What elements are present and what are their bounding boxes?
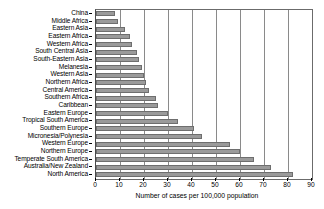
x-axis-tick-label: 10: [115, 181, 122, 188]
x-axis-tick-labels: 0102030405060708090: [0, 181, 324, 191]
y-axis-label: Middle Africa: [0, 17, 92, 25]
y-axis-tick: [89, 128, 92, 129]
y-axis-tick: [89, 143, 92, 144]
bar: [96, 57, 139, 62]
bar-row: [96, 110, 312, 118]
bar-row: [96, 117, 312, 125]
bar-row: [96, 18, 312, 26]
bar-row: [96, 56, 312, 64]
bar: [96, 134, 202, 139]
x-axis-tick-label: 90: [307, 181, 314, 188]
x-axis-tick-label: 40: [187, 181, 194, 188]
bar: [96, 65, 142, 70]
bar: [96, 88, 149, 93]
bar: [96, 73, 144, 78]
bar: [96, 11, 115, 16]
bar-row: [96, 25, 312, 33]
y-axis-tick: [89, 136, 92, 137]
y-axis-label: South Central Asia: [0, 47, 92, 55]
y-axis-tick: [89, 67, 92, 68]
y-axis-tick: [89, 113, 92, 114]
bar: [96, 111, 168, 116]
bar: [96, 172, 293, 177]
bar-rows: [96, 10, 312, 179]
x-axis-title: Number of cases per 100,000 population: [0, 192, 324, 199]
y-axis-tick: [89, 44, 92, 45]
x-axis-tick-label: 0: [93, 181, 97, 188]
bar: [96, 142, 230, 147]
y-axis-label: Tropical South America: [0, 116, 92, 124]
bar: [96, 80, 146, 85]
bar-row: [96, 133, 312, 141]
x-axis-tick-label: 20: [139, 181, 146, 188]
bar: [96, 103, 158, 108]
y-axis-label: Southern Africa: [0, 93, 92, 101]
y-axis-label: Southern Europe: [0, 124, 92, 132]
x-axis-tick-label: 30: [163, 181, 170, 188]
bar: [96, 50, 137, 55]
y-axis-tick: [89, 159, 92, 160]
x-axis-tick-label: 50: [211, 181, 218, 188]
y-axis-label: Temperate South America: [0, 155, 92, 163]
y-axis-label: Australia/New Zealand: [0, 162, 92, 170]
y-axis-tick: [89, 120, 92, 121]
bar: [96, 19, 118, 24]
bar-row: [96, 64, 312, 72]
x-axis-tick-label: 80: [283, 181, 290, 188]
bar-row: [96, 87, 312, 95]
plot-area: [95, 9, 313, 180]
y-axis-tick: [89, 90, 92, 91]
bar: [96, 157, 254, 162]
y-axis-label: China: [0, 9, 92, 17]
bar-row: [96, 41, 312, 49]
y-axis-label: Western Europe: [0, 139, 92, 147]
y-axis-label: Central America: [0, 86, 92, 94]
y-axis-tick: [89, 97, 92, 98]
bar: [96, 165, 271, 170]
bar-row: [96, 125, 312, 133]
y-axis-category-labels: ChinaMiddle AfricaEastern AsiaEastern Af…: [0, 9, 92, 178]
bar: [96, 27, 125, 32]
y-axis-tick: [89, 28, 92, 29]
bar-row: [96, 156, 312, 164]
y-axis-label: Caribbean: [0, 101, 92, 109]
bar: [96, 126, 194, 131]
y-axis-label: Eastern Europe: [0, 109, 92, 117]
y-axis-tick: [89, 174, 92, 175]
bar-chart: ChinaMiddle AfricaEastern AsiaEastern Af…: [0, 0, 324, 209]
bar: [96, 34, 130, 39]
x-axis-tick-label: 70: [259, 181, 266, 188]
y-axis-tick: [89, 105, 92, 106]
x-axis-tick-label: 60: [235, 181, 242, 188]
y-axis-tick: [89, 51, 92, 52]
bar-row: [96, 102, 312, 110]
y-axis-label: Northern Africa: [0, 78, 92, 86]
y-axis-tick: [89, 82, 92, 83]
y-axis-label: North America: [0, 170, 92, 178]
y-axis-tick: [89, 13, 92, 14]
bar-row: [96, 79, 312, 87]
y-axis-tick: [89, 21, 92, 22]
bar: [96, 42, 132, 47]
bar-row: [96, 48, 312, 56]
bar-row: [96, 140, 312, 148]
y-axis-tick: [89, 36, 92, 37]
bar-row: [96, 10, 312, 18]
y-axis-label: South-Eastern Asia: [0, 55, 92, 63]
y-axis-label: Melanesia: [0, 63, 92, 71]
bar-row: [96, 163, 312, 171]
y-axis-label: Western Asia: [0, 70, 92, 78]
y-axis-label: Eastern Africa: [0, 32, 92, 40]
bar: [96, 96, 156, 101]
y-axis-label: Micronesia/Polynesia: [0, 132, 92, 140]
y-axis-label: Eastern Asia: [0, 24, 92, 32]
y-axis-label: Western Africa: [0, 40, 92, 48]
bar-row: [96, 148, 312, 156]
bar: [96, 119, 178, 124]
bar-row: [96, 33, 312, 41]
y-axis-tick: [89, 74, 92, 75]
bar-row: [96, 94, 312, 102]
y-axis-tick: [89, 59, 92, 60]
y-axis-tick: [89, 151, 92, 152]
y-axis-tick: [89, 166, 92, 167]
